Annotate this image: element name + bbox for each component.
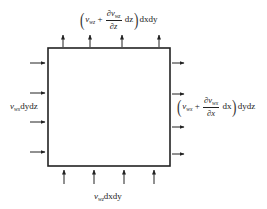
bottom-flux-label: vwzdxdy xyxy=(94,192,122,203)
right-deriv-num: ∂v xyxy=(204,95,212,105)
close-paren: ) xyxy=(232,97,236,116)
top-deriv-den: ∂z xyxy=(110,21,118,31)
left-area: dydz xyxy=(20,101,38,111)
right-deriv-den: ∂x xyxy=(207,108,215,118)
top-flux-label: (vwz + ∂vwz ∂z dz)dxdy xyxy=(79,9,158,30)
top-derivative: ∂vwz ∂z xyxy=(106,9,122,30)
right-plus: + xyxy=(195,101,200,111)
top-diff: dz xyxy=(125,14,134,24)
top-area: dxdy xyxy=(140,14,158,24)
top-var-sub: wz xyxy=(89,19,95,25)
left-flux-label: vwxdydz xyxy=(10,102,38,113)
close-paren: ) xyxy=(134,10,138,29)
control-volume-box xyxy=(48,48,170,166)
open-paren: ( xyxy=(80,10,84,29)
bottom-area: dxdy xyxy=(104,191,122,201)
right-var-sub: wx xyxy=(186,106,192,112)
right-flux-label: (vwx + ∂vwx ∂x dx)dydz xyxy=(176,96,255,117)
top-deriv-num-sub: wz xyxy=(115,13,121,19)
open-paren: ( xyxy=(177,97,181,116)
right-deriv-num-sub: wx xyxy=(212,100,218,106)
top-deriv-num: ∂v xyxy=(107,8,115,18)
right-diff: dx xyxy=(222,101,231,111)
right-area: dydz xyxy=(238,101,256,111)
right-derivative: ∂vwx ∂x xyxy=(203,96,219,117)
top-plus: + xyxy=(97,14,102,24)
